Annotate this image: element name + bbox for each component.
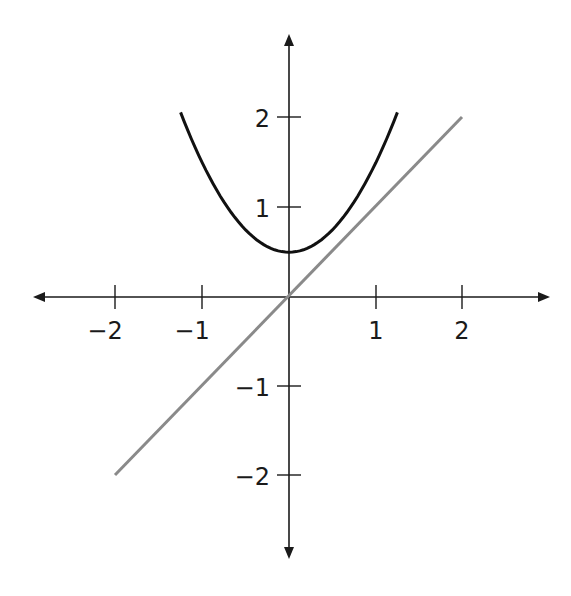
x-axis-left-arrow-icon	[33, 292, 45, 302]
y-tick-label: −1	[235, 374, 270, 402]
x-tick-label: 2	[454, 317, 469, 345]
y-tick-label: 1	[255, 195, 270, 223]
chart-canvas: −2 −1 1 2 2 1 −1 −2	[0, 0, 571, 596]
y-tick-label: −2	[235, 463, 270, 491]
x-tick-label: −2	[87, 317, 122, 345]
x-axis-right-arrow-icon	[538, 292, 550, 302]
y-axis-down-arrow-icon	[284, 547, 294, 559]
y-axis-up-arrow-icon	[284, 34, 294, 46]
y-tick-label: 2	[255, 105, 270, 133]
x-tick-label: 1	[368, 317, 383, 345]
x-tick-label: −1	[174, 317, 209, 345]
